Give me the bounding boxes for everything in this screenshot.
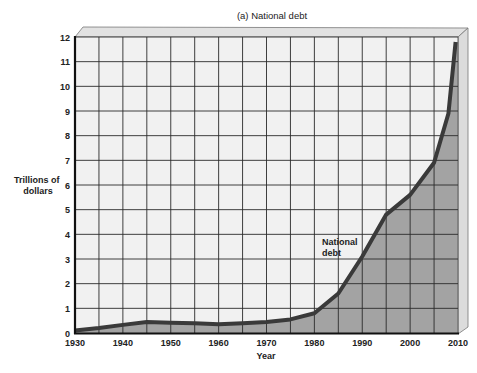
x-tick-label: 1970 <box>256 338 276 348</box>
x-tick-label: 1990 <box>352 338 372 348</box>
national-debt-chart: (a) National debt 0123456789101112 19301… <box>0 0 477 373</box>
y-tick-label: 2 <box>65 279 70 289</box>
x-tick-label: 2000 <box>400 338 420 348</box>
y-tick-label: 3 <box>65 255 70 265</box>
y-tick-label: 4 <box>65 230 70 240</box>
y-tick-label: 8 <box>65 131 70 141</box>
x-tick-label: 2010 <box>448 338 468 348</box>
x-tick-label: 1960 <box>209 338 229 348</box>
y-tick-label: 5 <box>65 205 70 215</box>
x-tick-label: 1950 <box>161 338 181 348</box>
x-tick-label: 1980 <box>304 338 324 348</box>
y-tick-label: 7 <box>65 156 70 166</box>
chart-title: (a) National debt <box>237 10 308 21</box>
side-face <box>458 28 468 334</box>
y-tick-label: 10 <box>60 82 70 92</box>
y-tick-label: 9 <box>65 107 70 117</box>
y-tick-label: 11 <box>60 57 70 67</box>
x-tick-label: 1940 <box>113 338 133 348</box>
x-axis-label: Year <box>256 351 276 361</box>
y-axis-label: Trillions of dollars <box>14 175 62 196</box>
y-tick-label: 1 <box>65 304 70 314</box>
y-tick-label: 0 <box>65 329 70 339</box>
top-face <box>75 27 468 37</box>
y-tick-label: 6 <box>65 181 70 191</box>
y-tick-label: 12 <box>60 33 70 43</box>
x-tick-label: 1930 <box>65 338 85 348</box>
